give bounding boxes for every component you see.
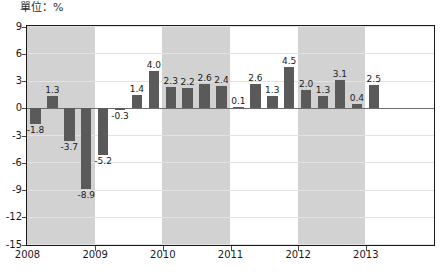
bar-value-label: 2.4	[208, 75, 235, 85]
bar-value-label: -8.9	[73, 190, 100, 200]
bar-value-label: 1.3	[39, 85, 66, 95]
bar	[30, 108, 40, 124]
bar-value-label: 2.6	[242, 73, 269, 83]
bar-value-label: -5.2	[90, 156, 117, 166]
unit-label: 單位：%	[20, 1, 63, 14]
bar	[115, 108, 125, 111]
plot-inner: -1.81.3-3.7-8.9-5.2-0.31.44.02.32.22.62.…	[27, 26, 434, 245]
y-tick-mark	[22, 27, 26, 28]
gridline--12	[27, 217, 434, 218]
bar-value-label: -0.3	[107, 111, 134, 121]
bar-value-label: 2.5	[360, 74, 387, 84]
bar	[352, 104, 362, 108]
y-tick-mark	[22, 108, 26, 109]
bar	[47, 96, 57, 108]
bar-value-label: 3.1	[327, 69, 354, 79]
gridline--15	[27, 244, 434, 245]
y-tick-mark	[22, 163, 26, 164]
bar	[318, 96, 328, 108]
bar	[64, 108, 74, 142]
x-tick-mark	[163, 246, 164, 251]
y-tick-label: 0	[0, 102, 22, 113]
x-tick-label-2008: 2008	[8, 249, 48, 261]
bar-value-label: 4.5	[276, 56, 303, 66]
gridline-6	[27, 53, 434, 54]
y-tick-mark	[22, 54, 26, 55]
bar-chart: 單位：% -1.81.3-3.7-8.9-5.2-0.31.44.02.32.2…	[0, 0, 446, 275]
plot-area: -1.81.3-3.7-8.9-5.2-0.31.44.02.32.22.62.…	[26, 25, 435, 246]
bar	[182, 88, 192, 108]
bar	[199, 84, 209, 108]
bar	[233, 107, 243, 108]
y-tick-mark	[22, 81, 26, 82]
x-tick-mark	[366, 246, 367, 251]
bar	[166, 87, 176, 108]
y-tick-label: -9	[0, 184, 22, 195]
y-tick-label: -12	[0, 211, 22, 222]
x-tick-mark	[231, 246, 232, 251]
bar	[132, 95, 142, 108]
bar-value-label: -3.7	[56, 142, 83, 152]
y-tick-label: -15	[0, 239, 22, 250]
bar-value-label: 1.3	[259, 85, 286, 95]
bar-value-label: 0.1	[225, 96, 252, 106]
y-tick-mark	[22, 190, 26, 191]
x-tick-mark	[95, 246, 96, 251]
y-tick-label: 9	[0, 21, 22, 32]
y-tick-label: -3	[0, 130, 22, 141]
y-tick-mark	[22, 245, 26, 246]
bar-value-label: 1.3	[310, 85, 337, 95]
y-tick-label: 6	[0, 48, 22, 59]
bar-value-label: 0.4	[343, 93, 370, 103]
y-tick-label: 3	[0, 75, 22, 86]
bar-value-label: -1.8	[27, 125, 49, 135]
bar-value-label: 4.0	[140, 60, 167, 70]
x-tick-mark	[298, 246, 299, 251]
y-tick-mark	[22, 136, 26, 137]
gridline-9	[27, 26, 434, 27]
bar	[267, 96, 277, 108]
bar-value-label: 1.4	[124, 84, 151, 94]
y-tick-label: -6	[0, 157, 22, 168]
y-tick-mark	[22, 217, 26, 218]
